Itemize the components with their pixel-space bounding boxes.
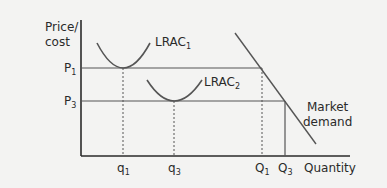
y-axis-label-2: cost bbox=[45, 35, 70, 49]
market-demand-label-1: Market bbox=[307, 100, 349, 114]
p3-label: P3 bbox=[64, 94, 76, 110]
Q3-label: Q3 bbox=[278, 161, 293, 177]
cost-curve-diagram: Price/ cost P1 P3 LRAC1 LRAC2 Market dem… bbox=[0, 0, 387, 188]
lrac1-curve bbox=[97, 43, 150, 68]
p1-label: P1 bbox=[64, 61, 76, 77]
x-axis-label: Quantity bbox=[304, 161, 356, 175]
y-axis-label-1: Price/ bbox=[45, 20, 79, 34]
Q1-label: Q1 bbox=[255, 161, 270, 177]
lrac2-curve bbox=[147, 80, 202, 101]
lrac2-label: LRAC2 bbox=[204, 75, 240, 91]
q3-label: q3 bbox=[168, 161, 181, 177]
market-demand-label-2: demand bbox=[303, 115, 352, 129]
q1-label: q1 bbox=[117, 161, 130, 177]
lrac1-label: LRAC1 bbox=[155, 35, 191, 51]
